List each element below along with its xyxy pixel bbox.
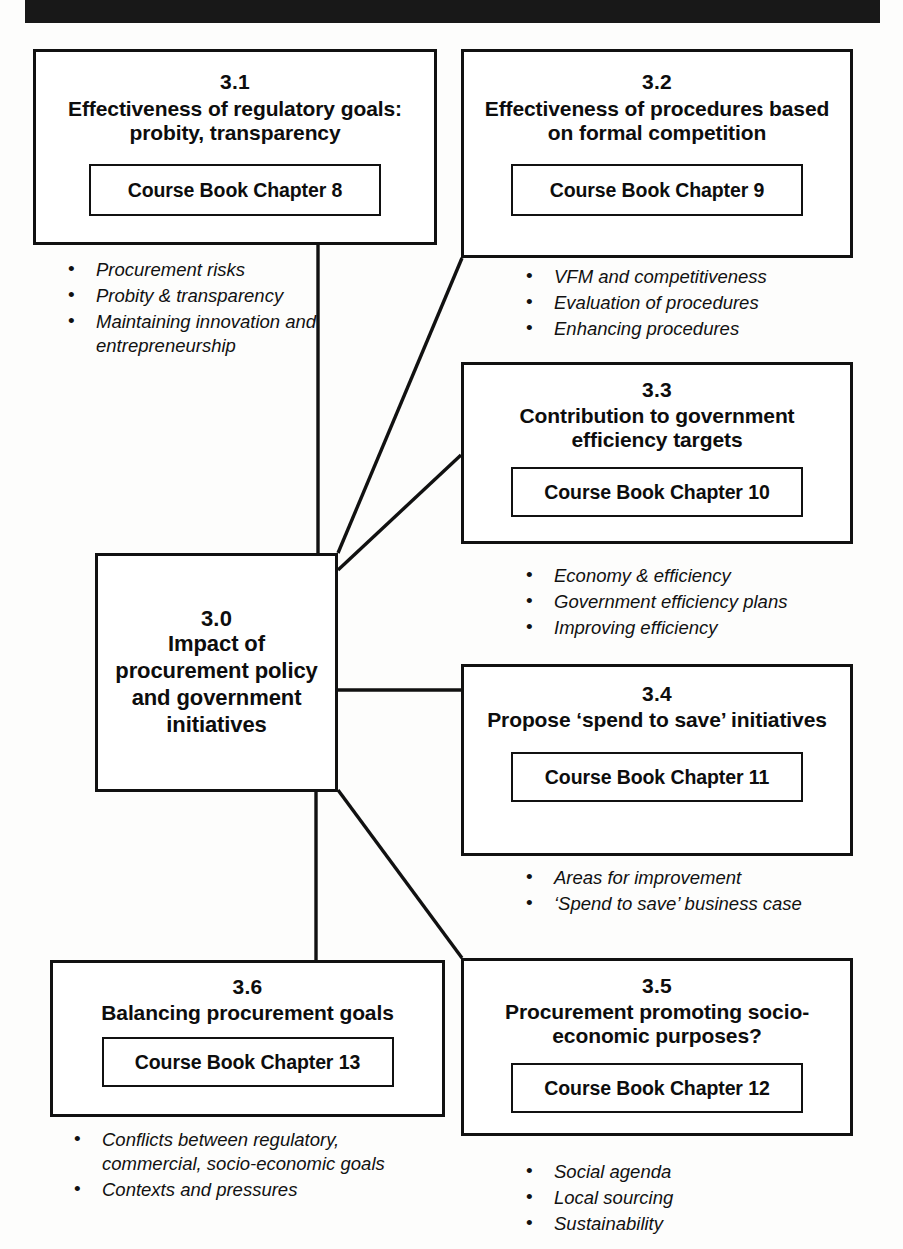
node-3-4-number: 3.4	[642, 682, 672, 706]
bullets-3-3: Economy & efficiency Government efficien…	[518, 564, 848, 642]
list-item: Maintaining innovation and entrepreneurs…	[60, 310, 380, 358]
node-3-2-chapter[interactable]: Course Book Chapter 9	[511, 164, 803, 216]
list-item: Economy & efficiency	[518, 564, 848, 588]
bullets-3-1: Procurement risks Probity & transparency…	[60, 258, 380, 360]
black-header-bar	[25, 0, 880, 23]
list-item: Conflicts between regulatory, commercial…	[66, 1128, 426, 1176]
diagram-canvas: 3.1 Effectiveness of regulatory goals: p…	[0, 0, 903, 1249]
bullets-3-4: Areas for improvement ‘Spend to save’ bu…	[518, 866, 858, 918]
list-item: Evaluation of procedures	[518, 291, 848, 315]
list-item: Improving efficiency	[518, 616, 848, 640]
node-3-2[interactable]: 3.2 Effectiveness of procedures based on…	[461, 49, 853, 258]
node-3-0-number: 3.0	[201, 607, 232, 632]
list-item: Procurement risks	[60, 258, 380, 282]
node-3-3-number: 3.3	[642, 378, 672, 402]
connector-30-to-33	[338, 455, 461, 570]
node-3-6-title: Balancing procurement goals	[95, 1001, 400, 1026]
node-3-6[interactable]: 3.6 Balancing procurement goals Course B…	[50, 960, 445, 1117]
node-3-5-chapter[interactable]: Course Book Chapter 12	[511, 1063, 803, 1113]
node-3-2-title: Effectiveness of procedures based on for…	[464, 97, 850, 147]
list-item: VFM and competitiveness	[518, 265, 848, 289]
node-3-4-title: Propose ‘spend to save’ initiatives	[481, 708, 833, 733]
node-3-1-chapter[interactable]: Course Book Chapter 8	[89, 164, 381, 216]
node-3-5-title: Procurement promoting socio-economic pur…	[464, 1000, 850, 1050]
node-3-0[interactable]: 3.0 Impact of procurement policy and gov…	[95, 553, 338, 792]
bullets-3-2: VFM and competitiveness Evaluation of pr…	[518, 265, 848, 343]
node-3-4-chapter[interactable]: Course Book Chapter 11	[511, 752, 803, 802]
list-item: Probity & transparency	[60, 284, 380, 308]
node-3-3-chapter[interactable]: Course Book Chapter 10	[511, 467, 803, 517]
connector-30-to-35	[338, 790, 462, 958]
node-3-5[interactable]: 3.5 Procurement promoting socio-economic…	[461, 958, 853, 1136]
bullets-3-5: Social agenda Local sourcing Sustainabil…	[518, 1160, 848, 1238]
list-item: ‘Spend to save’ business case	[518, 892, 858, 916]
node-3-6-chapter[interactable]: Course Book Chapter 13	[102, 1037, 394, 1087]
node-3-1-number: 3.1	[220, 70, 250, 94]
list-item: Areas for improvement	[518, 866, 858, 890]
node-3-2-number: 3.2	[642, 70, 672, 94]
node-3-3-title: Contribution to government efficiency ta…	[464, 404, 850, 454]
node-3-6-number: 3.6	[233, 975, 263, 999]
node-3-3[interactable]: 3.3 Contribution to government efficienc…	[461, 362, 853, 544]
list-item: Enhancing procedures	[518, 317, 848, 341]
node-3-5-number: 3.5	[642, 974, 672, 998]
node-3-0-title: Impact of procurement policy and governm…	[98, 631, 335, 738]
node-3-1[interactable]: 3.1 Effectiveness of regulatory goals: p…	[33, 49, 437, 245]
list-item: Contexts and pressures	[66, 1178, 426, 1202]
node-3-1-title: Effectiveness of regulatory goals: probi…	[36, 97, 434, 147]
list-item: Local sourcing	[518, 1186, 848, 1210]
list-item: Sustainability	[518, 1212, 848, 1236]
list-item: Government efficiency plans	[518, 590, 848, 614]
bullets-3-6: Conflicts between regulatory, commercial…	[66, 1128, 426, 1204]
list-item: Social agenda	[518, 1160, 848, 1184]
node-3-4[interactable]: 3.4 Propose ‘spend to save’ initiatives …	[461, 664, 853, 856]
